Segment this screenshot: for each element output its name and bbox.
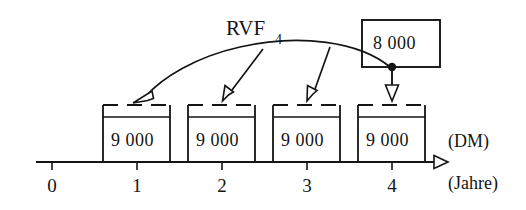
time-axis	[36, 156, 448, 169]
axis-unit-currency: (DM)	[448, 132, 489, 150]
bar-4-value: 9 000	[366, 131, 409, 149]
bar-2-value: 9 000	[196, 131, 239, 149]
arrowhead-bar-2-icon	[223, 86, 234, 102]
tick-label-1: 1	[127, 176, 147, 195]
tick-label-0: 0	[42, 176, 62, 195]
axis-unit-years: (Jahre)	[448, 174, 498, 192]
leader-line-to-bar-2	[232, 49, 263, 90]
rvf-label: RVF	[226, 18, 265, 39]
rvf-subscript: 4	[275, 33, 282, 47]
leader-curve-to-bar-1	[146, 40, 390, 96]
tick-label-2: 2	[212, 176, 232, 195]
figure-root: RVF 4 8 000 9 000 9 000 9 000 9 000 0 1 …	[0, 0, 526, 210]
bar-1-value: 9 000	[111, 131, 154, 149]
leader-line-to-bar-3	[315, 47, 330, 89]
tick-label-4: 4	[382, 176, 402, 195]
tick-label-3: 3	[297, 176, 317, 195]
arrowhead-bar-1-icon	[133, 91, 154, 103]
axis-ticks	[52, 162, 392, 170]
arrowhead-bar-4-icon	[386, 85, 399, 101]
bar-3-value: 9 000	[281, 131, 324, 149]
axis-arrowhead-icon	[434, 156, 448, 169]
annotation-box-value: 8 000	[373, 34, 416, 52]
